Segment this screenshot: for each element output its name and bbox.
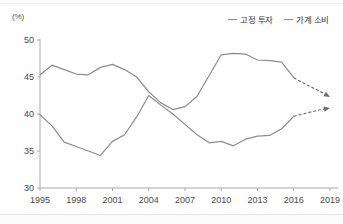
x-axis: 199519982001200420072010201320162019 — [30, 188, 340, 205]
x-axis-tick-label: 2004 — [139, 195, 159, 205]
series-forecast-fixed-investment — [294, 78, 326, 95]
x-axis-tick-label: 2013 — [247, 195, 267, 205]
chart-container: (%) 고정 투자 가계 소비 5045403530 1995199820012… — [0, 0, 343, 224]
x-axis-tick-label: 2010 — [211, 195, 231, 205]
series-line-fixed-investment — [40, 53, 294, 109]
x-axis-tick-label: 2016 — [284, 195, 304, 205]
x-axis-tick-label: 2007 — [175, 195, 195, 205]
series-line-household-consumption — [40, 96, 294, 156]
forecast-arrow-icon — [323, 92, 330, 97]
x-axis-tick-label: 2001 — [102, 195, 122, 205]
plot-area: 5045403530 19951998200120042007201020132… — [0, 0, 343, 224]
data-series-group — [40, 53, 330, 155]
y-axis-tick-label: 45 — [24, 72, 34, 82]
y-axis-tick-label: 35 — [24, 146, 34, 156]
y-axis: 5045403530 — [24, 35, 40, 193]
x-axis-tick-label: 1995 — [30, 195, 50, 205]
y-axis-tick-label: 50 — [24, 35, 34, 45]
series-forecast-household-consumption — [294, 109, 325, 116]
y-axis-tick-label: 40 — [24, 109, 34, 119]
y-axis-tick-label: 30 — [24, 183, 34, 193]
bottom-border — [0, 214, 343, 224]
forecast-arrow-icon — [324, 107, 330, 112]
x-axis-tick-label: 2019 — [320, 195, 340, 205]
x-axis-tick-label: 1998 — [66, 195, 86, 205]
